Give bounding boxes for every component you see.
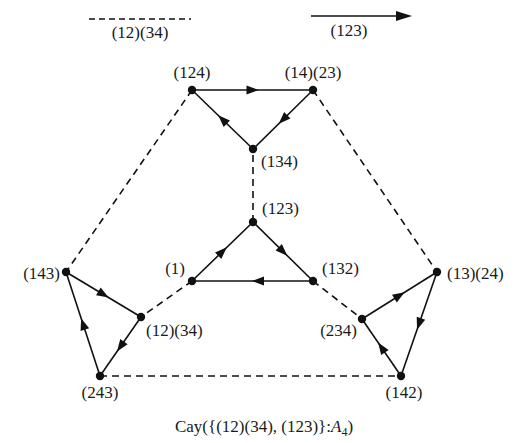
- dashed-edges: [66, 90, 437, 376]
- node-identity: [188, 277, 196, 285]
- solid-edges: [66, 90, 437, 376]
- edge-14_23-13_24: [313, 90, 437, 272]
- node-123: [249, 218, 257, 226]
- node-12-34: [137, 313, 145, 321]
- arrow-icon: [413, 317, 425, 331]
- node-243: [96, 372, 104, 380]
- edge-e-12_34: [141, 281, 192, 317]
- node-label: (142): [386, 383, 423, 402]
- caption-group: A: [330, 417, 342, 436]
- caption: Cay({(12)(34), (123)}:A4): [175, 417, 353, 439]
- node-label: (123): [262, 199, 299, 218]
- node-label: (13)(24): [447, 264, 504, 283]
- arrow-icon: [247, 86, 259, 95]
- node-13-24: [433, 268, 441, 276]
- legend-dashed-label: (12)(34): [112, 23, 169, 42]
- node-132: [309, 277, 317, 285]
- legend-arrow-icon: [396, 11, 412, 21]
- caption-prefix: Cay({(12)(34), (123)}:: [175, 417, 331, 436]
- node-14-23: [309, 86, 317, 94]
- arrow-icon: [113, 339, 127, 354]
- legend-solid-label: (123): [331, 21, 368, 40]
- cayley-graph: (12)(34) (123): [0, 0, 529, 443]
- node-label: (124): [174, 63, 211, 82]
- caption-suffix: ): [347, 417, 353, 436]
- nodes: [62, 86, 441, 380]
- node-142: [397, 372, 405, 380]
- arrow-icon: [392, 289, 407, 303]
- arrow-icon: [96, 288, 111, 302]
- node-label: (234): [320, 321, 357, 340]
- node-label: (132): [322, 259, 359, 278]
- node-label: (12)(34): [146, 321, 203, 340]
- node-label: (243): [82, 383, 119, 402]
- node-label: (143): [23, 264, 60, 283]
- legend: (12)(34) (123): [89, 11, 412, 42]
- edge-124-143: [66, 90, 192, 272]
- node-label: (1): [165, 259, 185, 278]
- arrow-icon: [77, 317, 89, 331]
- node-124: [188, 86, 196, 94]
- node-label: (134): [261, 152, 298, 171]
- arrow-icon: [252, 277, 264, 286]
- edge-132-234: [313, 281, 362, 319]
- node-143: [62, 268, 70, 276]
- arrow-icon: [374, 340, 388, 355]
- node-label: (14)(23): [285, 63, 342, 82]
- node-234: [358, 315, 366, 323]
- node-134: [249, 145, 257, 153]
